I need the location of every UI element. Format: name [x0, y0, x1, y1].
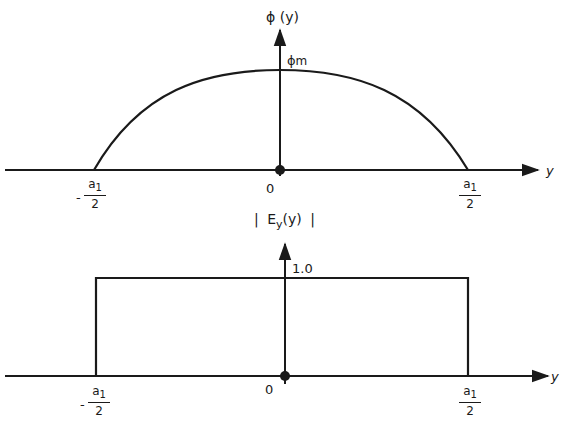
abs-bar-right: | — [310, 211, 315, 227]
bottom-x-axis-label: y — [551, 370, 559, 383]
numerator-sub: 1 — [99, 389, 105, 400]
numerator-sub: 1 — [470, 182, 476, 193]
e-symbol: E — [267, 211, 276, 227]
bottom-left-tick-sign: - — [80, 397, 85, 412]
numerator-sub: 1 — [470, 389, 476, 400]
bottom-right-tick-label: a1 2 — [459, 385, 481, 417]
top-origin-label: 0 — [266, 182, 274, 195]
denominator: 2 — [459, 198, 481, 210]
level-label: 1.0 — [292, 262, 313, 275]
bottom-y-axis-label: | Ey(y) | — [254, 212, 315, 230]
top-y-axis-label: ϕ (y) — [266, 10, 299, 24]
top-left-tick-sign: - — [76, 190, 81, 205]
peak-label-main: ϕ — [287, 53, 296, 68]
e-argument: (y) — [283, 211, 302, 227]
top-x-axis-label: y — [546, 164, 554, 177]
bottom-left-tick-label: a1 2 — [88, 385, 110, 417]
fraction-bar — [88, 402, 110, 403]
numerator-sub: 1 — [95, 182, 101, 193]
fraction-bar — [459, 195, 481, 196]
bottom-origin-dot — [280, 371, 290, 381]
top-origin-dot — [275, 165, 285, 175]
fraction-bar — [459, 402, 481, 403]
peak-label-sub: m — [296, 54, 308, 68]
bottom-plot — [5, 244, 548, 384]
top-plot — [5, 30, 538, 176]
denominator: 2 — [459, 405, 481, 417]
top-right-tick-label: a1 2 — [459, 178, 481, 210]
abs-bar-left: | — [254, 211, 259, 227]
peak-label: ϕm — [287, 54, 307, 67]
bottom-origin-label: 0 — [265, 383, 273, 396]
denominator: 2 — [88, 405, 110, 417]
denominator: 2 — [84, 198, 106, 210]
top-left-tick-label: a1 2 — [84, 178, 106, 210]
ey-pulse — [96, 278, 468, 376]
fraction-bar — [84, 195, 106, 196]
